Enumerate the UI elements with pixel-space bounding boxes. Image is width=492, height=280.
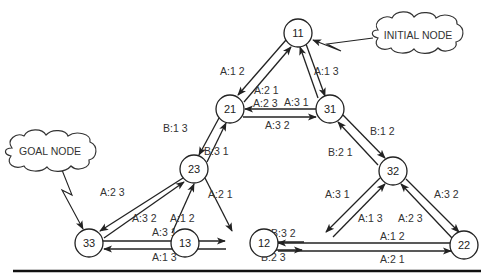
edge-label: A:2 3 (100, 186, 125, 198)
state-node-32: 32 (379, 157, 407, 185)
edge-label: B:1 3 (163, 122, 188, 134)
edge-label: A:1 3 (314, 65, 339, 77)
edge-label: A:1 3 (152, 251, 177, 263)
edges-layer: A:1 2 A:2 1 A:1 3 A:3 1 A:2 3 A:3 2 B:1 … (100, 40, 459, 265)
edge-label: A:3 1 (325, 188, 350, 200)
state-node-31: 31 (316, 95, 344, 123)
edge-label: A:1 3 (358, 212, 383, 224)
svg-text:11: 11 (292, 27, 303, 39)
edge-label: A:2 1 (208, 188, 233, 200)
cloud-icon: GOAL NODE (5, 130, 95, 172)
state-node-22: 22 (450, 231, 478, 259)
edge-label: A:1 2 (380, 230, 405, 242)
edge-label: A:1 2 (220, 65, 245, 77)
svg-text:22: 22 (458, 239, 470, 251)
svg-text:23: 23 (188, 163, 200, 175)
edge-32-22 (406, 179, 459, 232)
edge-label: B:1 2 (370, 125, 395, 137)
callout-label: INITIAL NODE (384, 29, 452, 41)
svg-text:13: 13 (179, 237, 191, 249)
lightning-connector-icon (60, 165, 83, 229)
svg-text:32: 32 (387, 165, 399, 177)
lightning-connector-icon (313, 38, 373, 51)
edge-label: A:1 2 (170, 212, 195, 224)
edge-label: A:2 1 (380, 253, 405, 265)
state-node-12: 12 (250, 229, 278, 257)
edge-label: A:3 2 (265, 119, 290, 131)
svg-text:12: 12 (258, 237, 270, 249)
svg-text:33: 33 (83, 237, 95, 249)
edge-label: B:2 1 (328, 146, 353, 158)
state-node-33: 33 (75, 229, 103, 257)
edge-label: A:2 1 (254, 84, 279, 96)
goal-node-callout: GOAL NODE (5, 130, 95, 229)
edge-23-13 (205, 178, 232, 231)
svg-text:31: 31 (324, 103, 336, 115)
state-node-21: 21 (216, 95, 244, 123)
edge-label: A:2 3 (398, 212, 423, 224)
state-graph-diagram: A:1 2 A:2 1 A:1 3 A:3 1 A:2 3 A:3 2 B:1 … (0, 0, 492, 280)
callout-label: GOAL NODE (19, 145, 81, 157)
edge-label: B:3 1 (204, 145, 229, 157)
svg-text:21: 21 (224, 103, 236, 115)
initial-node-callout: INITIAL NODE (313, 12, 463, 54)
state-node-13: 13 (171, 229, 199, 257)
state-node-23: 23 (180, 155, 208, 183)
cloud-icon: INITIAL NODE (372, 12, 463, 54)
edge-label: A:3 1 (284, 96, 309, 108)
edge-label: A:3 2 (132, 212, 157, 224)
edge-label: A:3 2 (434, 188, 459, 200)
state-node-11: 11 (284, 19, 312, 47)
edge-label: A:2 3 (253, 97, 278, 109)
